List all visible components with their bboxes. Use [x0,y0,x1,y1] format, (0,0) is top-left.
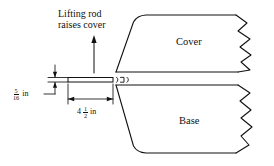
lifting-rod [68,78,113,83]
length-dimension-label: 4 1 2 in [77,106,96,119]
lifting-rod-note: Lifting rod raises cover [58,8,105,30]
zigzag-break-line [236,15,252,153]
length-denominator: 2 [83,113,88,119]
thickness-unit: in [22,90,28,99]
length-unit: in [90,108,96,117]
base-outline [116,85,238,153]
lifting-rod-note-line2: raises cover [58,19,105,30]
lifting-direction-arrow [91,35,96,73]
thickness-dimension-lines [44,65,68,94]
length-whole-number: 4 [77,108,81,117]
thickness-fraction: 5 16 [12,88,20,101]
cover-label: Cover [176,36,202,48]
base-label: Base [179,115,199,127]
thickness-dimension-label: 5 16 in [12,88,28,101]
length-dimension-lines [68,84,113,104]
thickness-denominator: 16 [12,95,20,101]
o-ring-seal-symbol [117,77,129,82]
length-fraction: 1 2 [83,106,88,119]
figure-canvas: Lifting rod raises cover Cover Base 5 16… [0,0,274,166]
diagram-linework [0,0,274,166]
lifting-rod-note-line1: Lifting rod [58,8,105,19]
